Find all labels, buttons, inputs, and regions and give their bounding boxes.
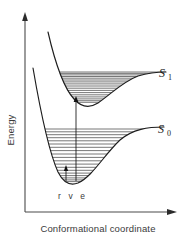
- s0-vibrational-levels: [28, 129, 170, 182]
- s1-potential-curve: [30, 32, 170, 106]
- vibrational-arrowhead-icon: [64, 165, 68, 171]
- x-axis: [25, 209, 177, 215]
- s0-state-label: S: [158, 122, 164, 136]
- y-axis-label: Energy: [5, 114, 16, 145]
- absorption-transition-arrow: [74, 96, 79, 181]
- s0-state-label-group: S 0: [158, 122, 171, 138]
- s1-state-label-group: S 1: [159, 66, 172, 82]
- x-axis-label: Conformational coordinate: [40, 223, 155, 234]
- s0-potential-curve: [28, 68, 170, 184]
- x-axis-arrowhead-icon: [167, 209, 177, 215]
- s0-state-subscript: 0: [167, 129, 171, 138]
- s1-state-label: S: [159, 66, 165, 80]
- diagram-canvas: S 1 S 0 r v e Energy Conformational coor…: [0, 0, 185, 241]
- s1-state-subscript: 1: [168, 73, 172, 82]
- potential-energy-diagram: S 1 S 0 r v e Energy Conformational coor…: [0, 0, 185, 241]
- y-axis-arrowhead-icon: [22, 12, 28, 21]
- s1-curve-path: [48, 32, 166, 106]
- s1-vibrational-levels: [30, 72, 170, 102]
- mode-labels-rve: r v e: [58, 191, 88, 201]
- s0-curve-path: [33, 68, 164, 184]
- y-axis: [22, 12, 28, 212]
